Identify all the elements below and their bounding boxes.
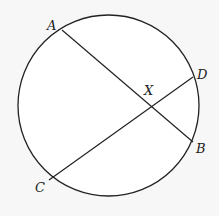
circle-chords-diagram: A D X B C xyxy=(0,0,219,216)
circle xyxy=(18,15,199,196)
label-c: C xyxy=(35,180,45,195)
label-a: A xyxy=(46,18,56,33)
label-b: B xyxy=(195,141,206,156)
label-x: X xyxy=(143,83,154,98)
label-d: D xyxy=(196,67,208,82)
